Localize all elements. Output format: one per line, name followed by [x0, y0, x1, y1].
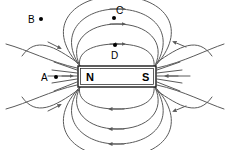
field-line-lower-1 — [79, 86, 154, 109]
point-b-dot — [39, 17, 43, 21]
field-line-lower-4 — [63, 89, 171, 150]
field-line-lower-6-arrow — [174, 106, 186, 111]
bar-magnet: N S — [78, 66, 156, 87]
lower-field-lines — [6, 85, 224, 150]
point-d-dot — [113, 43, 117, 47]
point-d-label: D — [111, 50, 118, 61]
fan-line-n-3 — [52, 79, 77, 83]
fan-line-s-3 — [157, 79, 182, 83]
field-line-canvas: N S A B C D — [0, 0, 228, 150]
point-c-label: C — [116, 5, 123, 16]
fan-line-s-1 — [157, 62, 180, 70]
fan-line-n-4 — [54, 82, 77, 91]
north-pole-label: N — [86, 71, 94, 83]
point-c-dot — [112, 16, 116, 20]
point-b-label: B — [28, 14, 35, 25]
fan-line-n-2 — [52, 70, 77, 73]
point-a-label: A — [41, 72, 48, 83]
fan-line-n-1 — [54, 62, 77, 70]
field-line-upper-6-arrow — [174, 42, 186, 47]
field-line-lower-3 — [71, 88, 163, 144]
field-line-lower-2 — [76, 87, 158, 129]
fan-line-s-2 — [157, 70, 182, 73]
magnetic-field-diagram: N S A B C D — [0, 0, 228, 150]
fan-line-s-4 — [157, 82, 180, 91]
south-pole-label: S — [142, 71, 149, 83]
point-a-dot — [54, 75, 58, 79]
